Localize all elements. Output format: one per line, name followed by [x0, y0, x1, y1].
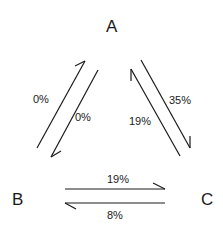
- transition-diagram: A B C 0% 0% 35% 19% 19% 8%: [0, 0, 223, 232]
- edge-b-to-a: 0%: [33, 61, 85, 148]
- edge-b-to-c-label: 19%: [107, 173, 129, 185]
- edge-a-to-c-label: 35%: [169, 94, 191, 106]
- edge-c-to-a: 19%: [129, 69, 180, 156]
- edge-a-to-c: 35%: [141, 60, 191, 148]
- node-c-label: C: [201, 190, 213, 209]
- edge-c-to-a-label: 19%: [129, 115, 151, 127]
- arrow-up-left-icon: [131, 69, 180, 156]
- edge-b-to-a-label: 0%: [33, 93, 49, 105]
- edge-a-to-b-label: 0%: [75, 111, 91, 123]
- edge-b-to-c: 19%: [65, 173, 165, 189]
- node-a-label: A: [106, 17, 118, 36]
- node-b-label: B: [12, 190, 23, 209]
- edge-c-to-b: 8%: [65, 203, 165, 221]
- edge-a-to-b: 0%: [51, 70, 98, 157]
- arrowhead-icon: [153, 183, 165, 189]
- edge-c-to-b-label: 8%: [107, 209, 123, 221]
- arrowhead-icon: [65, 203, 76, 209]
